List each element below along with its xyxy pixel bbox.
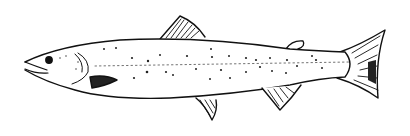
salmon-drawing [0, 0, 410, 136]
fish-illustration [0, 0, 410, 136]
eye [46, 57, 52, 63]
pelvic-fin [196, 98, 217, 120]
dorsal-fin [160, 16, 205, 39]
anal-fin [262, 85, 301, 110]
adipose-fin [286, 41, 304, 49]
